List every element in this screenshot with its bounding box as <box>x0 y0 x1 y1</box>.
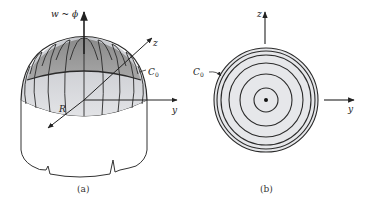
figure-a: w ~ ϕ z y R C0 (a) <box>21 9 178 194</box>
figure-b: z y C0 (b) <box>193 9 354 194</box>
caption-b: (b) <box>260 184 273 194</box>
y-axis-label-a: y <box>171 105 178 115</box>
z-axis-label-b: z <box>256 9 262 19</box>
center-point <box>264 98 268 102</box>
y-axis-label-b: y <box>347 104 354 114</box>
radius-label: R <box>58 104 66 114</box>
vertical-axis-label: w ~ ϕ <box>51 9 78 19</box>
zigzag-break <box>32 160 136 177</box>
caption-a: (a) <box>77 184 89 194</box>
diagram-canvas: w ~ ϕ z y R C0 (a) z y C0 (b) <box>0 0 370 208</box>
contour-label-a: C0 <box>148 67 159 78</box>
c0-leader-b <box>209 72 221 76</box>
contour-label-b: C0 <box>193 67 204 78</box>
z-axis-label-a: z <box>152 38 158 48</box>
